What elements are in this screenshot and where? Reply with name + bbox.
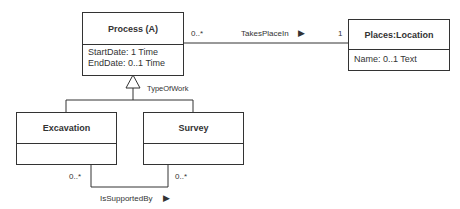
class-survey[interactable]: Survey	[143, 112, 244, 165]
attribute: StartDate: 1 Time	[88, 47, 178, 58]
class-name: Excavation	[17, 113, 116, 144]
association-label-is-supported-by: IsSupportedBy	[100, 194, 152, 203]
direction-arrow-icon: ▶	[298, 28, 305, 38]
class-name: Process (A)	[83, 13, 183, 45]
multiplicity-survey: 0..*	[175, 172, 187, 181]
multiplicity-places: 1	[338, 29, 342, 38]
class-excavation[interactable]: Excavation	[16, 112, 117, 165]
association-label-takes-place-in: TakesPlaceIn	[241, 29, 289, 38]
generalization-label-type-of-work: TypeOfWork	[147, 84, 189, 93]
is-supported-by-line	[91, 164, 168, 187]
class-name: Survey	[144, 113, 243, 144]
class-attributes: Name: 0..1 Text	[349, 49, 449, 70]
attribute: EndDate: 0..1 Time	[88, 58, 178, 69]
class-places-location[interactable]: Places:Location Name: 0..1 Text	[348, 19, 450, 71]
generalization-arrow-icon	[126, 75, 140, 88]
class-name: Places:Location	[349, 20, 449, 50]
class-process[interactable]: Process (A) StartDate: 1 Time EndDate: 0…	[82, 12, 184, 76]
multiplicity-excavation: 0..*	[69, 172, 81, 181]
attribute: Name: 0..1 Text	[354, 54, 444, 65]
class-attributes: StartDate: 1 Time EndDate: 0..1 Time	[83, 44, 183, 75]
multiplicity-process: 0..*	[191, 29, 203, 38]
direction-arrow-icon: ▶	[163, 193, 170, 203]
